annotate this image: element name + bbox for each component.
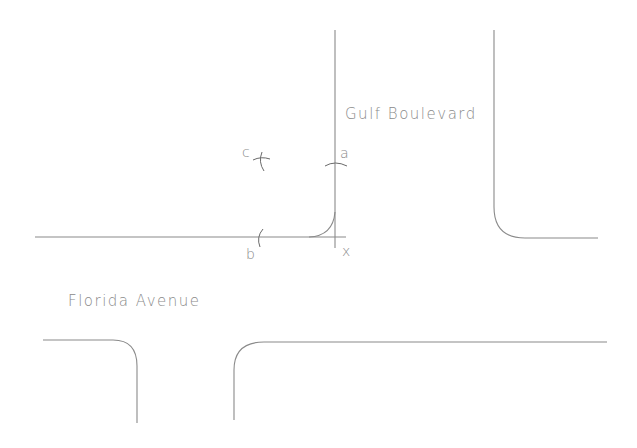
southwest-corner-curb: [43, 340, 137, 423]
southeast-corner-curb: [234, 342, 607, 420]
northeast-corner-curb: [494, 30, 598, 238]
point-label-a: a: [340, 145, 350, 161]
northwest-corner-curb: [35, 30, 346, 248]
construction-arc-b: [259, 229, 263, 247]
construction-arc-a: [325, 163, 347, 166]
point-label-b: b: [246, 246, 256, 262]
point-label-c: c: [242, 144, 251, 160]
street-label-florida-avenue: Florida Avenue: [68, 292, 201, 310]
point-label-x: x: [342, 243, 352, 259]
street-label-gulf-boulevard: Gulf Boulevard: [345, 105, 477, 123]
construction-arcs-c: [253, 152, 270, 171]
diagram-canvas: Gulf Boulevard Florida Avenue a b c x: [0, 0, 637, 448]
